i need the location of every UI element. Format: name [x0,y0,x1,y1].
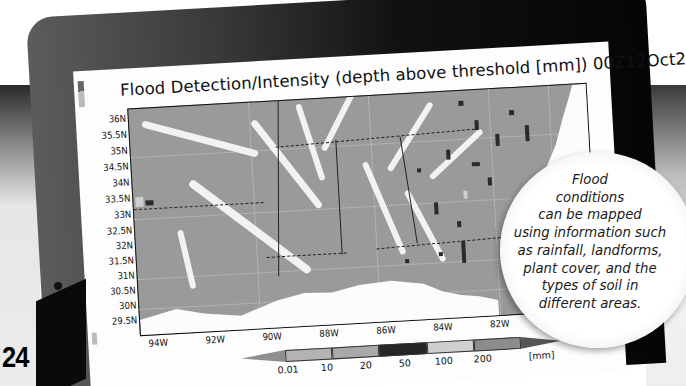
colorbar-segment [379,342,427,357]
colorbar-label: 10 [321,361,334,373]
x-tick: 88W [319,327,339,339]
colorbar-min-arrow [241,350,286,364]
y-tick: 30.5N [110,284,136,296]
callout-line: different areas. [502,295,678,313]
flood-cell [457,221,461,227]
callout-line: conditions [502,189,678,207]
colorbar-label: 0.01 [277,363,299,375]
river [250,119,324,210]
callout-line: plant cover, and the [502,260,678,278]
flood-cell [495,134,500,146]
y-tick: 29.5N [111,314,137,326]
y-tick: 36N [108,113,126,125]
flood-cell [405,259,409,263]
flood-cell [135,197,144,207]
camera-dot-icon [54,282,62,290]
screen-label-tag [78,81,85,107]
colorbar-label: 50 [398,357,411,369]
flood-cell [474,120,479,130]
y-tick: 34.5N [103,161,129,173]
x-tick: 92W [205,333,225,345]
colorbar-segment [426,340,474,355]
river [141,120,259,157]
y-tick: 32.5N [106,224,132,236]
colorbar-label: 200 [473,353,492,365]
state-border [278,101,280,276]
flood-cell [458,101,463,106]
flood-cell [488,177,492,185]
river [429,128,484,180]
callout-line: can be mapped [502,206,678,224]
flood-cell [446,150,451,160]
river [362,161,407,255]
y-tick: 33.5N [105,192,131,204]
flood-cell [472,162,480,166]
y-tick: 34N [112,176,130,188]
y-tick: 35.5N [101,129,127,141]
flood-cell [417,168,421,172]
x-tick: 90W [262,330,282,342]
colorbar-segment [473,337,521,352]
callout-line: types of soil in [502,277,678,295]
river [188,179,313,275]
y-tick: 33N [114,208,132,220]
x-tick: 94W [148,337,168,349]
x-tick: 84W [433,321,453,333]
colorbar-label: 20 [360,359,373,371]
x-tick: 86W [376,324,396,336]
colorbar-segment [285,347,333,362]
state-border [400,137,418,244]
gridline [488,89,502,315]
colorbar-segment [332,345,380,360]
flood-cell [461,241,466,263]
river [177,230,197,290]
y-tick: 35N [110,145,128,157]
flood-cell [463,191,467,199]
x-tick: 82W [490,317,510,329]
callout-line: Flood [502,171,678,189]
flood-cell [509,110,514,115]
y-tick: 31N [117,269,135,281]
callout-text: Flood conditions can be mapped using inf… [502,171,678,313]
colorbar-unit: [mm] [528,349,554,361]
y-tick: 31.5N [108,254,134,266]
colorbar-label: 100 [434,355,453,367]
y-tick: 30N [119,299,137,311]
map-title: Flood Detection/Intensity (depth above t… [120,47,686,99]
flood-cell [145,200,153,205]
flood-cell [434,202,439,214]
page-number: 24 [2,340,29,374]
callout-line: using information such [502,224,678,242]
callout-line: as rainfall, landforms, [502,242,678,260]
state-border [335,140,342,255]
flood-cell [439,252,443,256]
flood-cell [525,125,530,141]
y-tick: 32N [115,239,133,251]
